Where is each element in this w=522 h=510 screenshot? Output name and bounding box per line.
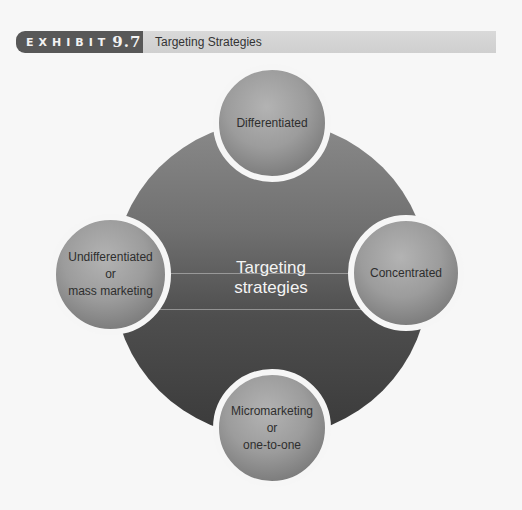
central-hub-label: Targeting strategies	[220, 258, 322, 298]
node-label: Concentrated	[370, 265, 442, 282]
node-micromarketing: Micromarketing or one-to-one	[213, 369, 331, 487]
node-label: Micromarketing	[231, 403, 313, 420]
node-label: mass marketing	[68, 283, 153, 300]
node-concentrated: Concentrated	[348, 215, 464, 331]
node-label: Differentiated	[236, 115, 307, 132]
node-label: one-to-one	[231, 437, 313, 454]
node-label: Undifferentiated	[68, 249, 153, 266]
node-differentiated: Differentiated	[213, 64, 331, 182]
node-undifferentiated: Undifferentiated or mass marketing	[50, 214, 171, 335]
targeting-strategies-diagram: Targeting strategies Differentiated Undi…	[0, 0, 522, 510]
node-label: or	[231, 420, 313, 437]
hub-label-line: strategies	[220, 278, 322, 298]
hub-label-line: Targeting	[220, 258, 322, 278]
node-label: or	[68, 266, 153, 283]
